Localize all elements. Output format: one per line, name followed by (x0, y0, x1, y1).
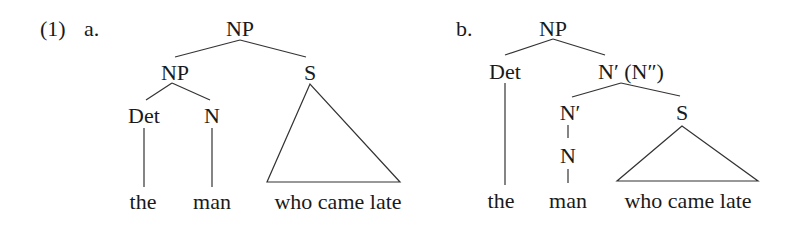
edge-nbar-s (621, 83, 680, 96)
edge-root-np (175, 40, 240, 57)
edge-root-s (240, 40, 306, 57)
tree-b-leaf-man: man (549, 188, 587, 213)
tree-a-s: S (304, 60, 316, 85)
edge-np-det (146, 83, 172, 100)
tree-b-leaf-the: the (488, 188, 515, 213)
tree-b: b. NP Det N′ (N″) N′ S N the man who cam… (456, 16, 758, 213)
tree-a-leaf-man: man (193, 189, 231, 214)
tree-a-label: a. (84, 16, 99, 41)
tree-a-root-np: NP (226, 16, 254, 41)
edge-np-n (172, 83, 210, 100)
tree-a: a. NP NP S Det N the man who came late (84, 16, 402, 214)
tree-b-label: b. (456, 16, 473, 41)
syntax-tree-diagram: (1) a. NP NP S Det N the man who came la… (0, 0, 794, 226)
tree-a-leaf-clause: who came late (274, 189, 401, 214)
tree-b-nbar2: N′ (560, 100, 581, 125)
edge-root-nbar (553, 39, 605, 55)
tree-b-nbar: N′ (N″) (598, 59, 664, 84)
edge-root-det (505, 39, 553, 55)
tree-b-n: N (560, 143, 576, 168)
tree-a-triangle (267, 84, 400, 182)
tree-b-det: Det (489, 59, 521, 84)
tree-a-leaf-the: the (130, 189, 157, 214)
tree-b-root-np: NP (539, 16, 567, 41)
tree-a-np: NP (161, 60, 189, 85)
tree-b-leaf-clause: who came late (624, 188, 751, 213)
example-number: (1) (40, 16, 66, 41)
tree-b-s: S (676, 100, 688, 125)
tree-a-det: Det (128, 103, 160, 128)
tree-a-n: N (204, 103, 220, 128)
tree-b-triangle (617, 126, 758, 181)
edge-nbar-nbar2 (572, 83, 621, 97)
